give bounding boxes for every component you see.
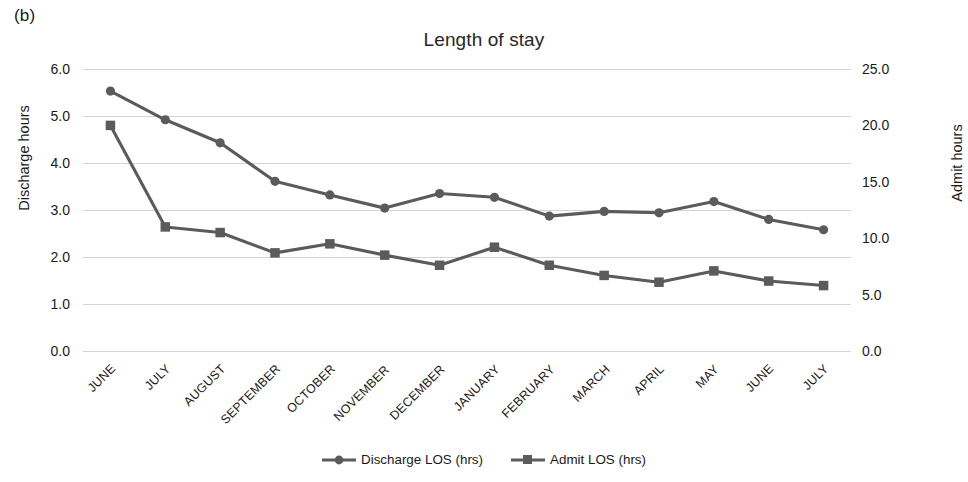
- data-point: [709, 197, 718, 206]
- y-axis-left-tick-label: 6.0: [22, 61, 70, 77]
- x-axis-tick-label: NOVEMBER: [331, 362, 392, 423]
- data-point: [819, 281, 829, 291]
- data-point: [161, 115, 170, 124]
- data-point: [600, 207, 609, 216]
- y-axis-left-tick-label: 4.0: [22, 155, 70, 171]
- x-axis-tick-label: OCTOBER: [284, 362, 338, 416]
- figure-panel-b: (b) Length of stay Discharge hours Admit…: [0, 0, 968, 482]
- chart-title: Length of stay: [0, 29, 968, 51]
- data-point: [325, 190, 334, 199]
- legend-label: Admit LOS (hrs): [550, 452, 646, 467]
- y-axis-right-tick-label: 10.0: [862, 230, 914, 246]
- legend-square-marker-icon: [511, 453, 545, 467]
- data-point: [709, 266, 719, 276]
- x-axis-tick-label: MAY: [693, 362, 722, 391]
- x-axis-tick-label: APRIL: [631, 362, 667, 398]
- x-axis-tick-label: JULY: [142, 362, 173, 393]
- data-point: [106, 121, 116, 130]
- line-chart-svg: [83, 69, 851, 351]
- data-point: [216, 138, 225, 147]
- y-axis-right-tick-label: 0.0: [862, 343, 914, 359]
- y-axis-left-tick-label: 1.0: [22, 296, 70, 312]
- data-point: [161, 222, 171, 232]
- data-point: [654, 208, 663, 217]
- data-point: [215, 228, 225, 238]
- data-point: [380, 250, 390, 260]
- x-axis-tick-label: JUNE: [743, 362, 776, 395]
- y-axis-right-tick-label: 5.0: [862, 287, 914, 303]
- data-point: [545, 261, 555, 271]
- series-line-1: [110, 91, 823, 230]
- y-axis-left-tick-label: 5.0: [22, 108, 70, 124]
- x-axis-tick-label: AUGUST: [181, 362, 228, 409]
- x-axis-tick-label: MARCH: [570, 362, 613, 405]
- data-series: [106, 86, 829, 290]
- panel-label: (b): [14, 6, 35, 26]
- legend-item-2[interactable]: Admit LOS (hrs): [511, 452, 646, 467]
- data-point: [764, 215, 773, 224]
- legend-label: Discharge LOS (hrs): [361, 452, 483, 467]
- y-axis-left-tick-label: 0.0: [22, 343, 70, 359]
- y-axis-right-tick-label: 20.0: [862, 117, 914, 133]
- x-axis-tick-label: JULY: [800, 362, 831, 393]
- x-axis-tick-label: JANUARY: [451, 362, 503, 414]
- data-point: [545, 212, 554, 221]
- data-point: [599, 271, 609, 281]
- x-axis-tick-label: JUNE: [85, 362, 118, 395]
- data-point: [819, 225, 828, 234]
- y-axis-right-tick-label: 15.0: [862, 174, 914, 190]
- data-point: [270, 248, 280, 258]
- x-axis-tick-label: DECEMBER: [387, 362, 448, 423]
- y-axis-right-tick-label: 25.0: [862, 61, 914, 77]
- data-point: [764, 276, 774, 286]
- series-line-2: [110, 125, 823, 285]
- data-point: [270, 177, 279, 186]
- data-point: [435, 261, 445, 271]
- data-point: [490, 193, 499, 202]
- legend-item-1[interactable]: Discharge LOS (hrs): [322, 452, 483, 467]
- x-axis-tick-label: FEBRUARY: [499, 362, 558, 421]
- data-point: [106, 86, 115, 95]
- y-axis-right-title: Admit hours: [949, 63, 965, 263]
- data-point: [654, 277, 664, 287]
- y-axis-left-tick-label: 2.0: [22, 249, 70, 265]
- y-axis-left-tick-label: 3.0: [22, 202, 70, 218]
- data-point: [325, 239, 335, 249]
- chart-legend: Discharge LOS (hrs)Admit LOS (hrs): [0, 452, 968, 467]
- data-point: [435, 189, 444, 198]
- legend-circle-marker-icon: [322, 453, 356, 467]
- data-point: [380, 204, 389, 213]
- data-point: [490, 242, 500, 252]
- plot-area: [83, 69, 851, 351]
